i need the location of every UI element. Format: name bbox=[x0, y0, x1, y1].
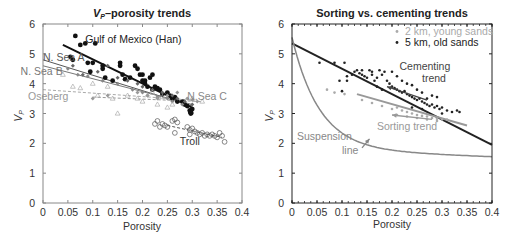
annotation-trend: trend bbox=[422, 72, 446, 84]
y-tick-label: 4 bbox=[29, 78, 35, 90]
right-legend: 2 km, young sands5 km, old sands bbox=[396, 25, 494, 48]
annotation-oseberg: Oseberg bbox=[28, 90, 68, 102]
x-tick-label: 0 bbox=[289, 206, 295, 218]
annotation-troll: Troll bbox=[180, 135, 200, 147]
x-tick-label: 0.4 bbox=[485, 206, 500, 218]
x-tick-label: 0.35 bbox=[207, 206, 228, 218]
right-ticks: 00.050.10.150.20.250.30.350.40123456 bbox=[278, 18, 499, 218]
y-tick-label: 3 bbox=[29, 108, 35, 120]
annotation-gulf-of-mexico-han: Gulf of Mexico (Han) bbox=[85, 33, 181, 45]
y-tick-label: 3 bbox=[278, 108, 284, 120]
x-tick-label: 0.1 bbox=[85, 206, 100, 218]
x-tick-label: 0.05 bbox=[58, 206, 79, 218]
series-gulf-of-mexico-han- bbox=[68, 34, 195, 116]
annotation-n-sea-a: N. Sea A bbox=[43, 51, 84, 63]
x-tick-label: 0.25 bbox=[157, 206, 178, 218]
x-tick-label: 0.2 bbox=[135, 206, 150, 218]
right-x-axis-label: Porosity bbox=[373, 218, 412, 230]
y-tick-label: 0 bbox=[29, 197, 35, 209]
figure: VP–porosity trends Gulf of Mexico (Han)N… bbox=[0, 0, 516, 241]
x-tick-label: 0.35 bbox=[457, 206, 478, 218]
y-tick-label: 1 bbox=[29, 167, 35, 179]
left-plot-area: Gulf of Mexico (Han)N. Sea AN. Sea BOseb… bbox=[21, 33, 228, 146]
y-tick-label: 2 bbox=[278, 137, 284, 149]
right-y-axis-label: VP bbox=[263, 110, 276, 122]
x-tick-label: 0.25 bbox=[407, 206, 428, 218]
x-tick-label: 0.15 bbox=[107, 206, 128, 218]
annotation-sorting-trend: Sorting trend bbox=[377, 120, 437, 132]
cementing-arrow-head bbox=[387, 86, 392, 90]
x-tick-label: 0.15 bbox=[357, 206, 378, 218]
annotation-cementing: Cementing bbox=[400, 60, 451, 72]
x-tick-label: 0.05 bbox=[307, 206, 328, 218]
y-tick-label: 2 bbox=[29, 137, 35, 149]
right-chart-title: Sorting vs. cementing trends bbox=[316, 7, 468, 19]
y-tick-label: 5 bbox=[278, 48, 284, 60]
legend-label: 5 km, old sands bbox=[405, 36, 479, 48]
left-y-axis-label: VP bbox=[12, 110, 25, 122]
legend-marker bbox=[396, 41, 399, 44]
y-tick-label: 1 bbox=[278, 167, 284, 179]
x-tick-label: 0 bbox=[40, 206, 46, 218]
left-chart-title: VP–porosity trends bbox=[93, 7, 191, 20]
left-ticks: 00.050.10.150.20.250.30.350.40123456 bbox=[29, 18, 249, 218]
legend-marker bbox=[396, 30, 399, 33]
annotation-n-sea-c: N.Sea C bbox=[187, 90, 227, 102]
x-tick-label: 0.2 bbox=[385, 206, 400, 218]
y-tick-label: 0 bbox=[278, 197, 284, 209]
x-tick-label: 0.3 bbox=[185, 206, 200, 218]
x-tick-label: 0.3 bbox=[435, 206, 450, 218]
annotation-line: line bbox=[342, 144, 359, 156]
annotation-suspension: Suspension bbox=[297, 130, 352, 142]
annotation-n-sea-b: N. Sea B bbox=[21, 65, 63, 77]
right-plot-area: CementingtrendSorting trendSuspensionlin… bbox=[292, 37, 492, 156]
left-x-axis-label: Porosity bbox=[123, 220, 162, 232]
y-tick-label: 6 bbox=[278, 18, 284, 30]
y-tick-label: 6 bbox=[29, 18, 35, 30]
y-tick-label: 5 bbox=[29, 48, 35, 60]
x-tick-label: 0.1 bbox=[335, 206, 350, 218]
right-panel-sorting-cementing: Sorting vs. cementing trends Cementingtr… bbox=[263, 7, 499, 230]
x-tick-label: 0.4 bbox=[235, 206, 250, 218]
left-panel-vp-porosity: VP–porosity trends Gulf of Mexico (Han)N… bbox=[12, 7, 249, 232]
y-tick-label: 4 bbox=[278, 78, 284, 90]
